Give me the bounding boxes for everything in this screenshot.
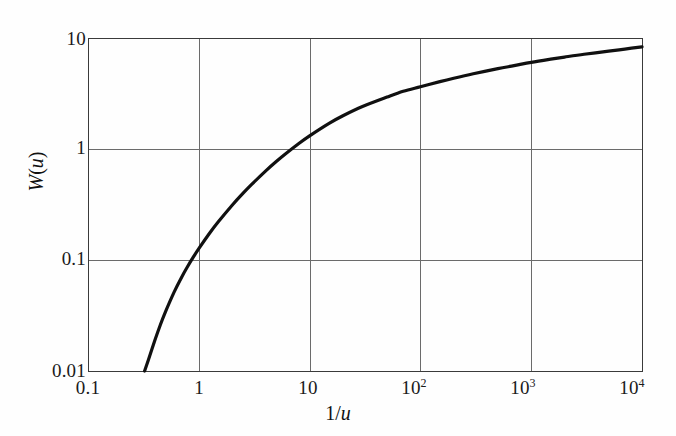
x-axis-title: 1/u [0,402,676,425]
plot-frame [89,39,643,372]
y-axis-title: W(u) [25,142,48,202]
series-line-w-of-u [145,47,642,371]
gridlines [88,38,642,371]
x-tick-label-10000: 104 [607,377,657,399]
y-tick-label-0.1: 0.1 [62,248,86,270]
x-tick-label-0.1: 0.1 [63,377,113,399]
x-tick-label-1000: 103 [498,377,548,399]
axes-frame [89,39,643,372]
y-tick-label-10: 10 [67,28,86,50]
x-tick-label-1: 1 [174,377,224,399]
x-tick-label-100: 102 [389,377,439,399]
y-tick-label-1: 1 [76,137,86,159]
data-curve [145,47,642,371]
well-function-type-curve-figure: 10 1 0.1 0.01 0.1 1 10 102 103 104 1/u W… [0,0,676,436]
x-tick-label-10: 10 [283,377,333,399]
chart-canvas [0,0,676,436]
